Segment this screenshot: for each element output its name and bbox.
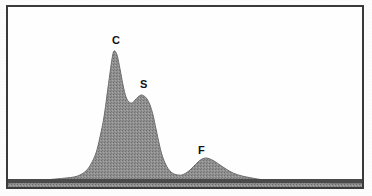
baseline-axis-bar [8, 179, 362, 183]
peak-label-fluorine: F [198, 145, 205, 156]
peak-label-carbon: C [112, 35, 120, 46]
spectrum-curve [8, 7, 362, 187]
spectrum-figure: C S F [0, 0, 372, 196]
plot-area [8, 7, 362, 187]
peak-label-sulfur: S [140, 79, 148, 90]
